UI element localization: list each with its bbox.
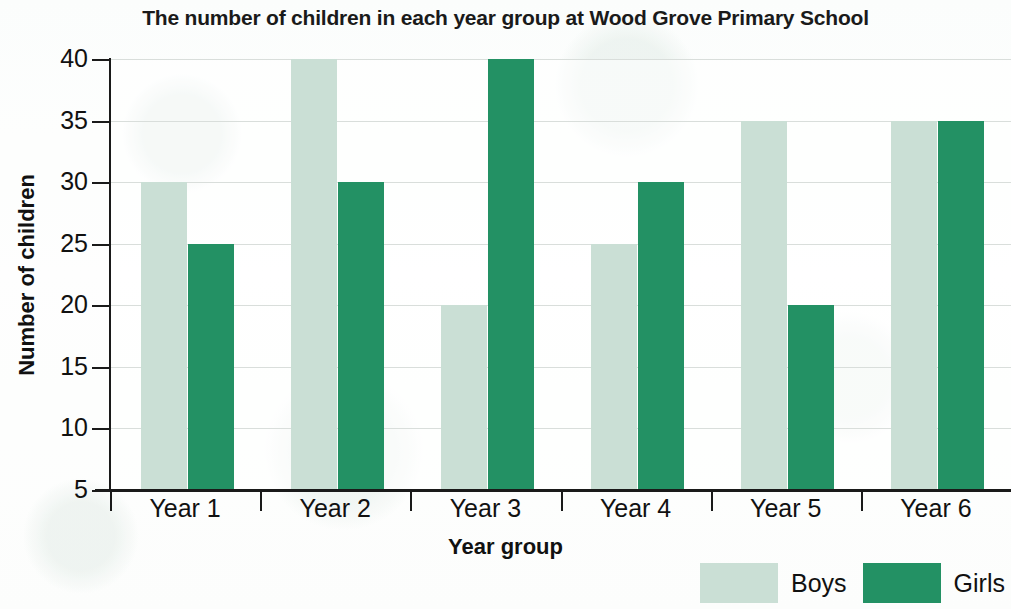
- y-axis-tick-label: 10: [44, 415, 88, 440]
- chart-legend: BoysGirls: [700, 563, 1005, 603]
- bar-boys-year-4: [591, 244, 637, 490]
- x-axis-title: Year group: [0, 534, 1011, 560]
- y-axis-tick-label: 5: [44, 477, 88, 502]
- y-axis-tick: [92, 305, 110, 307]
- x-axis-separator: [410, 491, 412, 511]
- x-axis-category-label: Year 2: [260, 494, 410, 523]
- legend-item-boys: Boys: [700, 563, 847, 603]
- chart-title: The number of children in each year grou…: [0, 6, 1011, 30]
- y-axis-tick-labels: 510152025303540: [38, 0, 88, 609]
- y-axis-tick-label: 20: [44, 292, 88, 317]
- y-axis-tick-label: 30: [44, 169, 88, 194]
- x-axis-line: [95, 489, 1011, 492]
- x-axis-category-label: Year 5: [711, 494, 861, 523]
- x-axis-category-label: Year 6: [861, 494, 1011, 523]
- x-axis-separator: [861, 491, 863, 511]
- bar-girls-year-1: [188, 244, 234, 490]
- y-axis-tick: [92, 428, 110, 430]
- y-axis-tick: [92, 367, 110, 369]
- bar-boys-year-5: [741, 121, 787, 490]
- bar-chart-figure: The number of children in each year grou…: [0, 0, 1011, 609]
- y-axis-tick: [92, 490, 110, 492]
- bar-group: [260, 59, 410, 490]
- bar-boys-year-6: [891, 121, 937, 490]
- y-axis-line: [109, 58, 111, 492]
- bar-group: [410, 59, 560, 490]
- x-axis-separator: [711, 491, 713, 511]
- y-axis-tick: [92, 182, 110, 184]
- y-axis-tick: [92, 244, 110, 246]
- bar-group: [711, 59, 861, 490]
- legend-item-girls: Girls: [863, 563, 1005, 603]
- x-axis-category-label: Year 4: [561, 494, 711, 523]
- y-axis-tick-label: 25: [44, 231, 88, 256]
- legend-label: Girls: [954, 569, 1005, 598]
- bar-group: [861, 59, 1011, 490]
- plot-area: [110, 59, 1011, 490]
- legend-label: Boys: [791, 569, 847, 598]
- bar-boys-year-3: [441, 305, 487, 490]
- bar-girls-year-3: [488, 59, 534, 490]
- y-axis-tick-label: 40: [44, 46, 88, 71]
- x-axis-category-label: Year 3: [410, 494, 560, 523]
- dark-green-swatch: [863, 563, 941, 603]
- y-axis-tick: [92, 59, 110, 61]
- light-green-swatch: [700, 563, 778, 603]
- y-axis-tick-label: 15: [44, 354, 88, 379]
- bar-group: [110, 59, 260, 490]
- bar-girls-year-4: [638, 182, 684, 490]
- bar-girls-year-6: [938, 121, 984, 490]
- bar-boys-year-1: [141, 182, 187, 490]
- x-axis-category-label: Year 1: [110, 494, 260, 523]
- x-axis-separator: [260, 491, 262, 511]
- bar-boys-year-2: [291, 59, 337, 490]
- x-axis-separator: [561, 491, 563, 511]
- bar-group: [561, 59, 711, 490]
- y-axis-tick: [92, 121, 110, 123]
- bar-girls-year-5: [788, 305, 834, 490]
- y-axis-tick-label: 35: [44, 108, 88, 133]
- x-axis-separator: [110, 491, 112, 511]
- bar-girls-year-2: [338, 182, 384, 490]
- y-axis-title: Number of children: [14, 135, 40, 415]
